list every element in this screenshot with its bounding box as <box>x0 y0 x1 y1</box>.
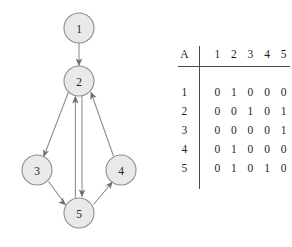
matrix-row-spacer <box>193 82 209 101</box>
matrix-horizontal-rule <box>178 66 290 67</box>
graph-node-2-label: 2 <box>76 76 82 88</box>
matrix-row-spacer <box>193 139 209 158</box>
adjacency-matrix-table: A 1 2 3 4 5 1 0 1 0 0 <box>176 44 292 177</box>
graph-node-3-label: 3 <box>34 165 40 177</box>
matrix-cell-5-2: 1 <box>226 158 243 177</box>
matrix-cell-4-2: 1 <box>226 139 243 158</box>
matrix-col-header-3: 3 <box>242 44 259 63</box>
matrix-col-header-1: 1 <box>209 44 226 63</box>
directed-graph-diagram: 1 2 3 4 5 <box>0 0 175 247</box>
matrix-cell-3-5: 1 <box>275 120 292 139</box>
matrix-header-spacer <box>193 44 209 63</box>
matrix-row-header-4: 4 <box>176 139 193 158</box>
matrix-cell-1-3: 0 <box>242 82 259 101</box>
graph-node-2[interactable]: 2 <box>64 66 94 96</box>
matrix-cell-4-1: 0 <box>209 139 226 158</box>
graph-node-1-label: 1 <box>76 23 82 35</box>
matrix-cell-2-5: 1 <box>275 101 292 120</box>
matrix-cell-2-1: 0 <box>209 101 226 120</box>
edge-2-to-3 <box>43 92 68 158</box>
matrix-row-header-3: 3 <box>176 120 193 139</box>
matrix-row: 5 0 1 0 1 0 <box>176 158 292 177</box>
matrix-col-header-2: 2 <box>226 44 243 63</box>
matrix-cell-2-2: 0 <box>226 101 243 120</box>
matrix-row-header-5: 5 <box>176 158 193 177</box>
matrix-cell-5-3: 0 <box>242 158 259 177</box>
matrix-cell-1-5: 0 <box>275 82 292 101</box>
matrix-cell-4-4: 0 <box>259 139 276 158</box>
matrix-row: 4 0 1 0 0 0 <box>176 139 292 158</box>
matrix-cell-1-1: 0 <box>209 82 226 101</box>
matrix-cell-5-4: 1 <box>259 158 276 177</box>
matrix-cell-5-1: 0 <box>209 158 226 177</box>
matrix-cell-3-1: 0 <box>209 120 226 139</box>
matrix-cell-3-2: 0 <box>226 120 243 139</box>
edge-1-to-2 <box>76 43 82 67</box>
matrix-row-header-2: 2 <box>176 101 193 120</box>
matrix-row-spacer <box>193 158 209 177</box>
matrix-cell-1-4: 0 <box>259 82 276 101</box>
graph-node-4-label: 4 <box>118 165 124 177</box>
edge-5-to-4 <box>94 181 113 204</box>
matrix-cell-1-2: 1 <box>226 82 243 101</box>
adjacency-matrix: A 1 2 3 4 5 1 0 1 0 0 <box>176 44 292 194</box>
matrix-row-header-1: 1 <box>176 82 193 101</box>
matrix-row: 1 0 1 0 0 0 <box>176 82 292 101</box>
matrix-header-row: A 1 2 3 4 5 <box>176 44 292 63</box>
matrix-col-header-5: 5 <box>275 44 292 63</box>
matrix-row-spacer <box>193 101 209 120</box>
matrix-row: 2 0 0 1 0 1 <box>176 101 292 120</box>
matrix-row-spacer <box>193 120 209 139</box>
matrix-cell-2-3: 1 <box>242 101 259 120</box>
matrix-cell-4-3: 0 <box>242 139 259 158</box>
matrix-name-label: A <box>176 44 193 63</box>
edge-2-to-5 <box>79 96 85 198</box>
matrix-cell-2-4: 0 <box>259 101 276 120</box>
matrix-vertical-rule <box>199 46 200 189</box>
graph-canvas: 1 2 3 4 5 <box>0 0 175 247</box>
graph-node-1[interactable]: 1 <box>64 13 94 43</box>
matrix-cell-3-3: 0 <box>242 120 259 139</box>
graph-node-5-label: 5 <box>76 208 82 220</box>
matrix-cell-5-5: 0 <box>275 158 292 177</box>
graph-node-3[interactable]: 3 <box>22 155 52 185</box>
graph-node-5[interactable]: 5 <box>64 198 94 228</box>
figure-root: 1 2 3 4 5 A <box>0 0 292 247</box>
graph-node-4[interactable]: 4 <box>106 155 136 185</box>
edge-5-to-2 <box>72 96 78 200</box>
matrix-col-header-4: 4 <box>259 44 276 63</box>
edge-4-to-2 <box>90 92 113 157</box>
edge-3-to-5 <box>49 182 67 206</box>
matrix-cell-4-5: 0 <box>275 139 292 158</box>
matrix-cell-3-4: 0 <box>259 120 276 139</box>
matrix-row: 3 0 0 0 0 1 <box>176 120 292 139</box>
